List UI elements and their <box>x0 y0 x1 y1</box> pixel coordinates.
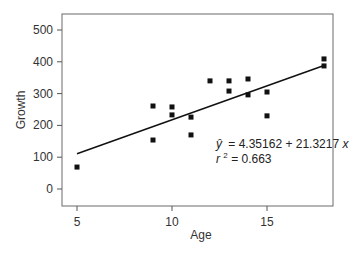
scatter-chart: 0100200300400500 51015 Growth Age ŷ = 4.… <box>0 0 351 255</box>
data-point <box>151 104 156 109</box>
y-axis: 0100200300400500 <box>33 23 62 196</box>
data-point <box>170 112 175 117</box>
x-tick-label: 15 <box>260 215 274 229</box>
data-point <box>265 113 270 118</box>
data-point <box>246 76 251 81</box>
svg-text:ŷ = 4.35162 + 21.3217: ŷ = 4.35162 + 21.3217 x <box>215 137 349 151</box>
data-point <box>246 92 251 97</box>
y-tick-label: 300 <box>33 87 53 101</box>
r2-value: = 0.663 <box>231 152 272 166</box>
x-symbol: x <box>341 137 349 151</box>
x-axis-label: Age <box>190 228 212 242</box>
data-point <box>189 132 194 137</box>
data-point <box>75 165 80 170</box>
x-tick-label: 10 <box>165 215 179 229</box>
y-tick-label: 0 <box>46 182 53 196</box>
y-axis-label: Growth <box>14 91 28 130</box>
x-tick-label: 5 <box>74 215 81 229</box>
data-point <box>170 104 175 109</box>
data-point <box>322 63 327 68</box>
data-point <box>265 90 270 95</box>
data-point <box>189 115 194 120</box>
y-tick-label: 500 <box>33 23 53 37</box>
r2-prefix: r <box>216 152 221 166</box>
r2-superscript: 2 <box>223 151 228 160</box>
data-point <box>227 89 232 94</box>
data-point <box>227 78 232 83</box>
data-point <box>322 56 327 61</box>
x-axis: 51015 <box>74 206 274 229</box>
y-tick-label: 400 <box>33 55 53 69</box>
data-point <box>151 138 156 143</box>
y-tick-label: 100 <box>33 150 53 164</box>
y-tick-label: 200 <box>33 118 53 132</box>
yhat-symbol: ŷ <box>215 137 223 151</box>
equation-text: = 4.35162 + 21.3217 <box>228 137 339 151</box>
data-point <box>208 78 213 83</box>
